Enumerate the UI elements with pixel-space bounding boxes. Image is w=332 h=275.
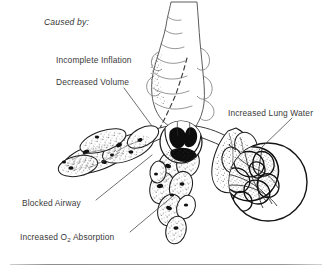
label-o2-subscript: 2: [67, 236, 71, 243]
footer-divider-rule: [10, 264, 322, 265]
label-increased-o2-absorption: Increased O2 Absorption: [20, 233, 114, 241]
leader-decreased-volume: [124, 88, 152, 126]
label-o2-text-before: Increased O: [20, 232, 67, 242]
lung-atelectasis-figure: Caused by: Incomplete Inflation Decrease…: [0, 0, 332, 275]
label-o2-text-after: Absorption: [71, 232, 115, 242]
left-alveolar-cluster: [56, 121, 162, 180]
label-incomplete-inflation: Incomplete Inflation: [56, 56, 132, 64]
label-blocked-airway: Blocked Airway: [22, 199, 81, 207]
caused-by-heading: Caused by:: [44, 18, 89, 27]
label-decreased-volume: Decreased Volume: [56, 78, 129, 86]
label-increased-lung-water: Increased Lung Water: [228, 109, 313, 117]
